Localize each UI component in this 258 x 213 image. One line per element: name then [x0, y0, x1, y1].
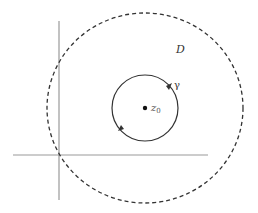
z0-label-subscript: 0 [156, 107, 160, 115]
contour-diagram: D γ z0 [0, 0, 258, 213]
gamma-label: γ [174, 80, 180, 90]
center-point-dot [143, 106, 147, 110]
z0-label: z0 [151, 103, 161, 115]
domain-label: D [176, 44, 185, 55]
diagram-canvas [0, 0, 258, 213]
